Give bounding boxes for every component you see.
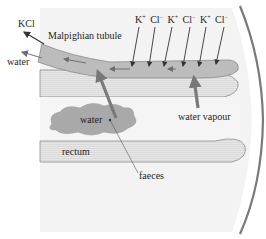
- label-faeces: faeces: [139, 171, 164, 181]
- ion-cl: Cl−: [183, 14, 196, 25]
- ion-k: K+: [200, 14, 211, 25]
- label-kcl: KCl: [18, 19, 35, 29]
- label-rectum: rectum: [62, 147, 90, 157]
- label-malpighian-tubule: Malpighian tubule: [48, 31, 122, 41]
- label-water-out: water: [7, 57, 29, 67]
- label-water-vapour: water vapour: [178, 112, 230, 122]
- ion-k: K+: [135, 14, 146, 25]
- ion-cl: Cl−: [215, 14, 228, 25]
- ion-cl: Cl−: [150, 14, 163, 25]
- ion-labels: K+ Cl− K+ Cl− K+ Cl−: [135, 15, 228, 25]
- ion-k: K+: [167, 14, 178, 25]
- label-water-blob: water: [80, 115, 102, 125]
